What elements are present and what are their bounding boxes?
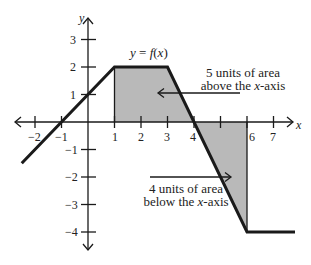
svg-text:3: 3 [164, 130, 170, 144]
svg-text:1: 1 [70, 88, 76, 102]
svg-text:−1: −1 [65, 143, 78, 157]
svg-text:4: 4 [190, 130, 196, 144]
svg-text:−2: −2 [65, 170, 78, 184]
svg-text:2: 2 [138, 130, 144, 144]
svg-text:2: 2 [70, 60, 76, 74]
svg-text:1: 1 [112, 130, 118, 144]
x-axis-label: x [295, 118, 302, 132]
svg-text:6: 6 [249, 130, 255, 144]
area-diagram: y x −2 −1 1 2 3 4 6 7 3 2 1 −1 −2 −3 −4 … [0, 0, 311, 265]
svg-text:7: 7 [270, 130, 276, 144]
svg-text:−1: −1 [55, 130, 68, 144]
function-label: y = f(x) [128, 45, 168, 60]
svg-text:−2: −2 [28, 130, 41, 144]
annotation-below-line2: below the x-axis [143, 194, 228, 209]
svg-text:−4: −4 [65, 225, 78, 239]
annotation-above-line2: above the x-axis [201, 78, 285, 93]
y-axis-label: y [78, 11, 85, 25]
svg-text:3: 3 [70, 33, 76, 47]
svg-text:−3: −3 [65, 198, 78, 212]
y-axis [81, 18, 96, 250]
